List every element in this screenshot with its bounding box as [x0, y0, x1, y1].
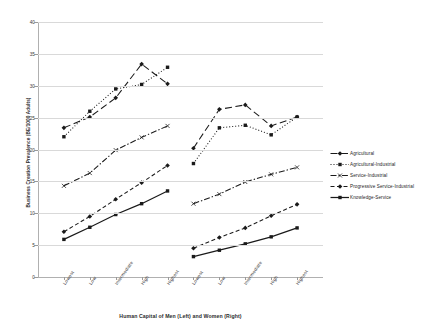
data-point [166, 189, 169, 192]
data-point [192, 162, 195, 165]
gridline [38, 86, 323, 87]
legend: AgriculturalAgricultural-IndustrialServi… [330, 148, 438, 203]
x-axis-line [38, 277, 323, 278]
gridline [38, 181, 323, 182]
y-axis-tick-labels: 0510152025303540 [10, 0, 35, 331]
data-point [295, 202, 300, 207]
y-tick-mark [34, 213, 38, 214]
data-point [295, 226, 298, 229]
data-point [166, 124, 170, 128]
data-point [218, 249, 221, 252]
data-point [140, 202, 143, 205]
data-point [88, 226, 91, 229]
legend-label: Agricultural [350, 151, 374, 156]
data-point [62, 238, 65, 241]
plot-area [38, 22, 323, 277]
legend-label: Service-Industrial [350, 173, 387, 178]
data-point [62, 229, 67, 234]
legend-item[interactable]: Agricultural [330, 148, 438, 159]
data-point [269, 133, 272, 136]
y-tick-mark [34, 245, 38, 246]
y-tick-mark [34, 86, 38, 87]
data-point [88, 214, 93, 219]
legend-item[interactable]: Service-Industrial [330, 170, 438, 181]
legend-label: Agricultural-Industrial [350, 162, 395, 167]
series-line [193, 167, 297, 203]
data-point [88, 171, 92, 175]
data-point [88, 110, 91, 113]
data-point [243, 226, 248, 231]
data-point [217, 235, 222, 240]
y-tick-mark [34, 277, 38, 278]
data-point [269, 124, 274, 129]
gridline [38, 22, 323, 23]
legend-label: Progressive Service-Industrial [350, 184, 414, 189]
y-tick-mark [34, 22, 38, 23]
data-point [295, 165, 299, 169]
legend-label: Knowledge-Service [350, 195, 391, 200]
data-point [62, 135, 65, 138]
legend-line-swatch [330, 160, 350, 169]
data-point [62, 184, 66, 188]
gridline [38, 54, 323, 55]
data-point [244, 124, 247, 127]
x-axis-title: Human Capital of Men (Left) and Women (R… [38, 313, 323, 319]
data-point [192, 255, 195, 258]
series-line [64, 126, 168, 186]
y-tick-mark [34, 181, 38, 182]
data-point [218, 126, 221, 129]
data-point [62, 126, 67, 131]
gridline [38, 213, 323, 214]
data-point [114, 87, 117, 90]
data-point [140, 135, 144, 139]
data-point [191, 246, 196, 251]
gridline [38, 150, 323, 151]
y-tick-mark [34, 150, 38, 151]
y-tick-mark [34, 118, 38, 119]
legend-line-swatch [330, 193, 350, 202]
data-point [338, 151, 343, 156]
legend-line-swatch [330, 182, 350, 191]
data-point [338, 163, 341, 166]
data-point [338, 184, 343, 189]
gridline [38, 118, 323, 119]
y-tick-mark [34, 54, 38, 55]
data-point [338, 196, 341, 199]
series-line [64, 67, 168, 136]
legend-line-swatch [330, 149, 350, 158]
data-point [269, 235, 272, 238]
legend-item[interactable]: Agricultural-Industrial [330, 159, 438, 170]
data-point [166, 66, 169, 69]
chart-container: Business Creation Prevalence (BE/1000 Ad… [0, 0, 439, 331]
legend-item[interactable]: Progressive Service-Industrial [330, 181, 438, 192]
legend-item[interactable]: Knowledge-Service [330, 192, 438, 203]
legend-line-swatch [330, 171, 350, 180]
gridline [38, 245, 323, 246]
